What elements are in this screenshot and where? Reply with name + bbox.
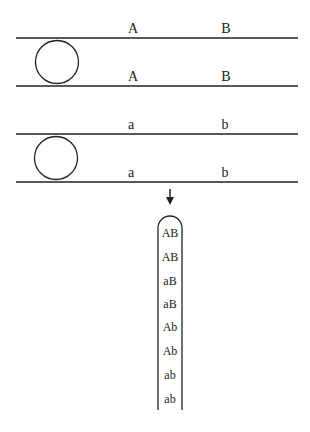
diagram-canvas: A B A B a b a b AB AB aB aB Ab Ab ab ab (0, 0, 310, 432)
gene-label: B (221, 21, 230, 36)
tube-row-label: aB (163, 297, 176, 311)
centromere-circle (35, 137, 78, 180)
tube-row-label: ab (164, 368, 175, 382)
tube-row-label: AB (162, 250, 179, 264)
gene-label: B (221, 69, 230, 84)
tube-row-label: aB (163, 274, 176, 288)
gene-label: A (128, 69, 139, 84)
gene-label: b (222, 117, 229, 132)
tube-row-label: Ab (163, 344, 178, 358)
gene-label: a (128, 165, 135, 180)
tube-row-label: ab (164, 392, 175, 406)
gene-label: b (222, 165, 229, 180)
chromosome-pair-1: A B A B (16, 21, 298, 86)
chromosome-pair-2: a b a b (16, 117, 298, 182)
tube-row-label: AB (162, 226, 179, 240)
gene-label: A (128, 21, 139, 36)
test-tube: AB AB aB aB Ab Ab ab ab (158, 216, 182, 410)
gene-label: a (128, 117, 135, 132)
centromere-circle (36, 41, 79, 84)
down-arrow-icon (166, 189, 174, 205)
tube-row-label: Ab (163, 320, 178, 334)
